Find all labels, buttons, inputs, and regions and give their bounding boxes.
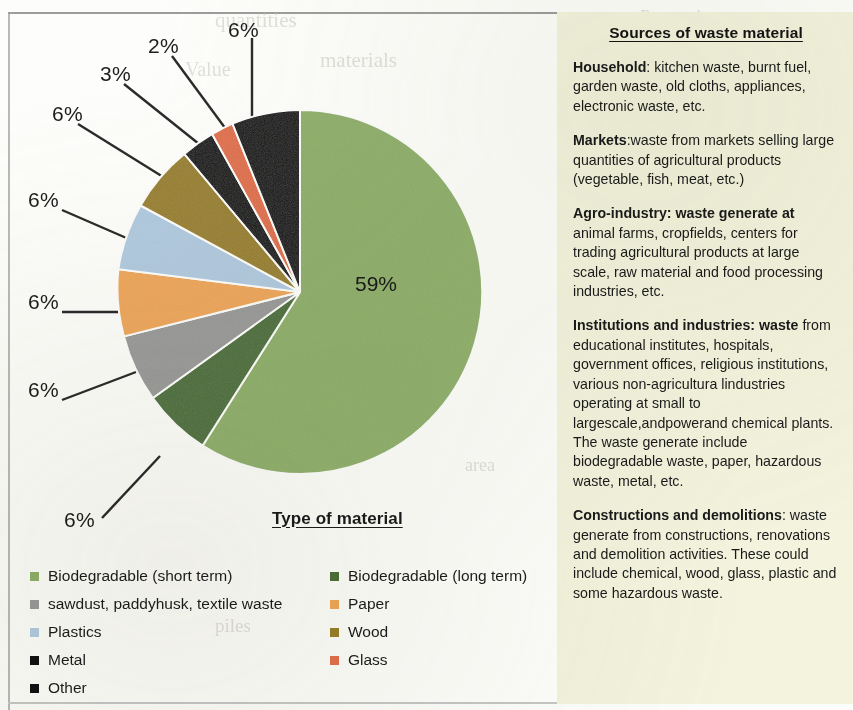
- legend-label: Paper: [348, 595, 389, 613]
- slice-label-biodegradable-short: 59%: [355, 272, 397, 296]
- paragraph-heading: Agro-industry: waste generate at: [573, 205, 795, 221]
- panel-paragraph-household: Household: kitchen waste, burnt fuel, ga…: [573, 58, 839, 116]
- paragraph-heading: Markets: [573, 132, 627, 148]
- callout-sawdust: 6%: [28, 378, 59, 402]
- legend-item-biodegradable-short[interactable]: Biodegradable (short term): [30, 562, 282, 590]
- paragraph-separator: :: [782, 507, 790, 523]
- panel-paragraph-constructions: Constructions and demolitions: waste gen…: [573, 506, 839, 603]
- legend-label: Biodegradable (short term): [48, 567, 232, 585]
- legend-item-other[interactable]: Other: [30, 674, 282, 702]
- panel-title: Sources of waste material: [573, 24, 839, 42]
- chart-title: Type of material: [272, 509, 403, 529]
- callout-wood: 6%: [52, 102, 83, 126]
- legend-swatch-icon: [330, 628, 339, 637]
- legend-swatch-icon: [30, 684, 39, 693]
- legend-item-biodegradable-long[interactable]: Biodegradable (long term): [330, 562, 527, 590]
- paragraph-body: animal farms, cropfields, centers for tr…: [573, 225, 823, 299]
- legend-item-plastics[interactable]: Plastics: [30, 618, 282, 646]
- panel-paragraph-markets: Markets:waste from markets selling large…: [573, 131, 839, 189]
- legend-swatch-icon: [30, 628, 39, 637]
- chart-legend: Biodegradable (short term) sawdust, padd…: [30, 562, 550, 707]
- pie-chart: 59% 6% 2% 3% 6% 6% 6% 6% 6% Type of mate…: [0, 0, 557, 710]
- legend-swatch-icon: [30, 656, 39, 665]
- callout-glass: 2%: [148, 34, 179, 58]
- paragraph-body: from educational institutes, hospitals, …: [573, 317, 833, 488]
- callout-plastics: 6%: [28, 188, 59, 212]
- callout-paper: 6%: [28, 290, 59, 314]
- legend-label: Biodegradable (long term): [348, 567, 527, 585]
- legend-label: Metal: [48, 651, 86, 669]
- callout-other: 6%: [228, 18, 259, 42]
- legend-label: Wood: [348, 623, 388, 641]
- legend-item-glass[interactable]: Glass: [330, 646, 527, 674]
- legend-swatch-icon: [30, 600, 39, 609]
- legend-swatch-icon: [330, 656, 339, 665]
- legend-label: Glass: [348, 651, 388, 669]
- scanned-page: quantities Properties materials Value pi…: [0, 0, 853, 710]
- legend-label: Plastics: [48, 623, 101, 641]
- sources-panel: Sources of waste material Household: kit…: [557, 12, 853, 704]
- pie-slices: [117, 110, 482, 474]
- legend-swatch-icon: [330, 600, 339, 609]
- paragraph-heading: Constructions and demolitions: [573, 507, 782, 523]
- panel-paragraph-institutions: Institutions and industries: waste from …: [573, 316, 839, 491]
- legend-item-sawdust[interactable]: sawdust, paddyhusk, textile waste: [30, 590, 282, 618]
- callout-metal: 3%: [100, 62, 131, 86]
- paragraph-heading: Institutions and industries: waste: [573, 317, 798, 333]
- legend-item-metal[interactable]: Metal: [30, 646, 282, 674]
- legend-column-right: Biodegradable (long term) Paper Wood Gla…: [330, 562, 527, 674]
- legend-label: sawdust, paddyhusk, textile waste: [48, 595, 282, 613]
- callout-biodegradable-long: 6%: [64, 508, 95, 532]
- paragraph-heading: Household: [573, 59, 646, 75]
- legend-column-left: Biodegradable (short term) sawdust, padd…: [30, 562, 282, 702]
- panel-paragraph-agro-industry: Agro-industry: waste generate at animal …: [573, 204, 839, 301]
- legend-swatch-icon: [330, 572, 339, 581]
- legend-item-wood[interactable]: Wood: [330, 618, 527, 646]
- legend-item-paper[interactable]: Paper: [330, 590, 527, 618]
- legend-swatch-icon: [30, 572, 39, 581]
- legend-label: Other: [48, 679, 87, 697]
